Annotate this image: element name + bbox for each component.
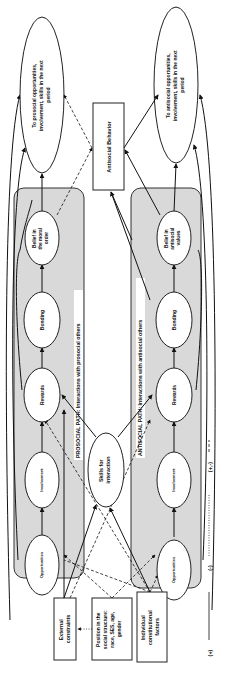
svg-text:External constraints: External constraints (58, 615, 71, 644)
legend-negative-label: (-) (207, 565, 213, 571)
antisocial-path-label: ANTISOCIAL PATH: Interactions with antis… (137, 320, 143, 456)
prosocial-path-label: PROSOCIAL PATH: Interactions with prosoc… (75, 323, 81, 458)
svg-text:Antisocial Behavior: Antisocial Behavior (106, 120, 112, 172)
svg-text:Involvement: Involvement (171, 468, 176, 492)
svg-text:Opportunities: Opportunities (171, 556, 176, 583)
social-development-model-diagram: PROSOCIAL PATH: Interactions with prosoc… (0, 0, 227, 680)
svg-text:Skills for interaction: Skills for interaction (98, 456, 111, 483)
svg-text:Involvement: Involvement (39, 468, 44, 492)
svg-text:Rewards: Rewards (172, 385, 177, 405)
legend: (+) (-) (+,-) (207, 440, 213, 656)
svg-text:Rewards: Rewards (40, 385, 45, 405)
legend-mixed-label: (+,-) (207, 462, 213, 472)
svg-text:Bonding: Bonding (171, 310, 177, 330)
svg-text:Opportunities: Opportunities (39, 551, 44, 578)
svg-text:Bonding: Bonding (39, 310, 45, 330)
legend-positive-label: (+) (207, 649, 213, 656)
